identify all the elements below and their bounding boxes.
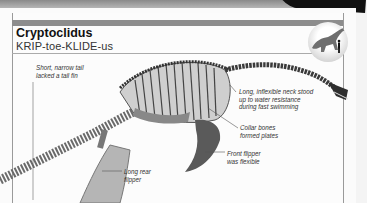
annotation-text: during fast swimming [239, 103, 313, 111]
annotation-text: up to water resistance [239, 96, 313, 104]
annotation-text: Long, inflexible neck stood [239, 88, 313, 96]
annotation-text: formed plates [240, 132, 278, 140]
annotation-text: Collar bones [240, 124, 278, 132]
annotation-tail: Short, narrow tail lacked a tail fin [36, 64, 84, 79]
annotation-front-flipper: Front flipper was flexible [227, 150, 261, 165]
annotation-neck: Long, inflexible neck stood up to water … [239, 88, 313, 111]
annotation-text: Short, narrow tail [36, 64, 84, 72]
annotation-text: was flexible [227, 158, 261, 166]
annotation-text: flipper [124, 176, 151, 184]
annotation-text: Long rear [124, 168, 151, 176]
annotation-text: lacked a tail fin [36, 72, 84, 80]
annotation-text: Front flipper [227, 150, 261, 158]
annotation-collar-bones: Collar bones formed plates [240, 124, 278, 139]
species-name: Cryptoclidus [16, 27, 113, 40]
annotation-rear-flipper: Long rear flipper [124, 168, 151, 183]
